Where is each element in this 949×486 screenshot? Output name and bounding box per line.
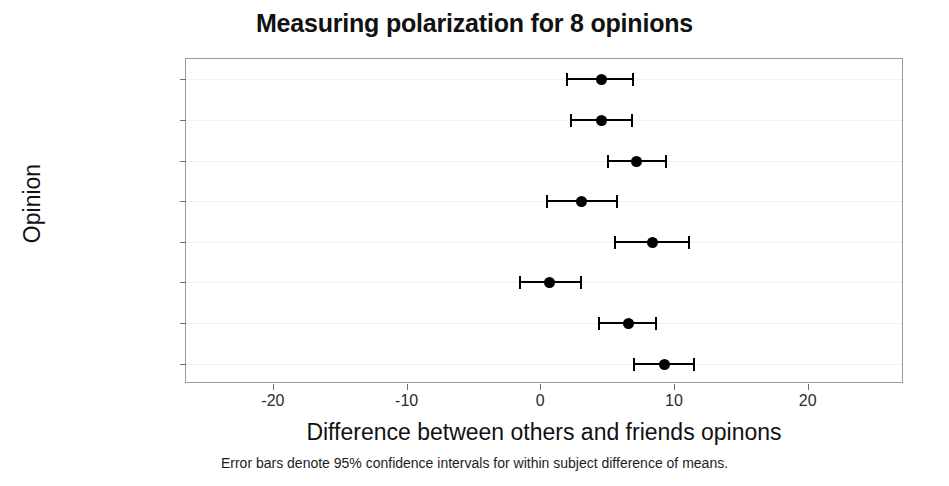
confidence-interval-cap-high — [616, 195, 618, 208]
errorbar-row-afd — [186, 355, 902, 373]
x-tick-mark — [273, 384, 274, 390]
confidence-interval-cap-high — [688, 236, 690, 249]
x-tick-mark — [808, 384, 809, 390]
data-point-afd2 — [623, 318, 634, 329]
x-tick-label-0: 0 — [536, 392, 545, 410]
y-tick-mark — [180, 161, 186, 162]
confidence-interval-cap-low — [598, 317, 600, 330]
y-axis-title: Opinion — [19, 124, 46, 284]
confidence-interval-cap-high — [632, 73, 634, 86]
errorbar-row-leftdisconnect — [186, 152, 902, 170]
confidence-interval-cap-low — [546, 195, 548, 208]
confidence-interval-cap-low — [519, 276, 521, 289]
x-tick-label--20: -20 — [261, 392, 284, 410]
x-tick-mark — [540, 384, 541, 390]
y-tick-mark — [180, 323, 186, 324]
confidence-interval-cap-high — [655, 317, 657, 330]
data-point-leftdisconnect — [631, 156, 642, 167]
confidence-interval-cap-high — [665, 155, 667, 168]
data-point-immigration2 — [576, 196, 587, 207]
y-tick-mark — [180, 282, 186, 283]
y-tick-mark — [180, 201, 186, 202]
errorbar-row-afd2 — [186, 314, 902, 332]
chart-footnote: Error bars denote 95% confidence interva… — [0, 455, 949, 471]
confidence-interval-cap-low — [607, 155, 609, 168]
x-axis-title: Difference between others and friends op… — [185, 419, 903, 446]
x-tick-mark — [674, 384, 675, 390]
data-point-demosoc — [544, 277, 555, 288]
x-tick-label-10: 10 — [665, 392, 683, 410]
y-tick-mark — [180, 120, 186, 121]
x-tick-mark — [407, 384, 408, 390]
data-point-womensrights — [596, 74, 607, 85]
confidence-interval-cap-low — [566, 73, 568, 86]
confidence-interval-cap-high — [631, 114, 633, 127]
x-tick-label--10: -10 — [395, 392, 418, 410]
errorbar-row-immigration2 — [186, 192, 902, 210]
confidence-interval-cap-low — [614, 236, 616, 249]
confidence-interval-cap-low — [570, 114, 572, 127]
data-point-immigration — [647, 237, 658, 248]
errorbar-row-demosoc — [186, 273, 902, 291]
errorbar-row-immigration — [186, 233, 902, 251]
data-point-afd — [659, 359, 670, 370]
y-tick-mark — [180, 364, 186, 365]
y-tick-mark — [180, 242, 186, 243]
chart-title: Measuring polarization for 8 opinions — [0, 9, 949, 38]
plot-area: womensrightsrussialeftdisconnectimmigrat… — [185, 58, 903, 383]
data-point-russia — [596, 115, 607, 126]
y-tick-mark — [180, 79, 186, 80]
errorbar-row-womensrights — [186, 70, 902, 88]
confidence-interval-cap-high — [693, 358, 695, 371]
chart-figure: Measuring polarization for 8 opinions Op… — [0, 0, 949, 486]
x-tick-label-20: 20 — [799, 392, 817, 410]
confidence-interval-cap-high — [580, 276, 582, 289]
confidence-interval-cap-low — [633, 358, 635, 371]
errorbar-row-russia — [186, 111, 902, 129]
